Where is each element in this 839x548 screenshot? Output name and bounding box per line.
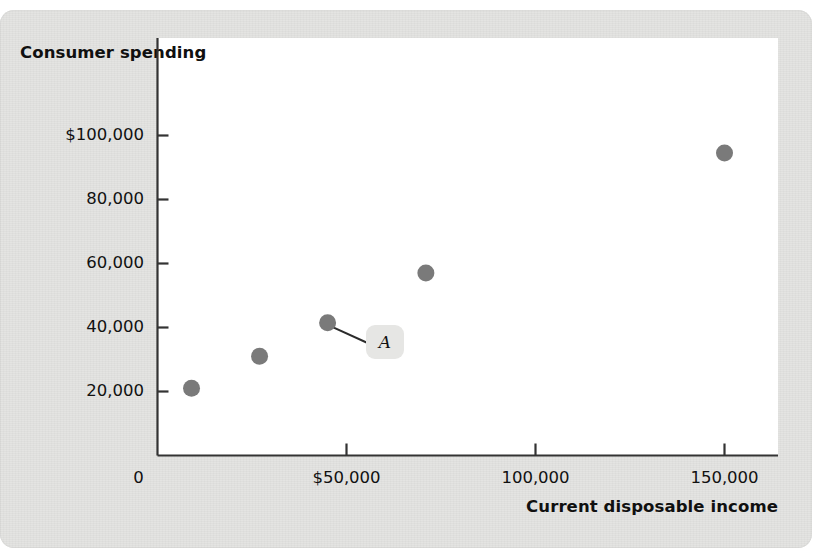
figure-container: Consumer spending Current disposable inc… (0, 0, 839, 548)
axis-tick-marks (158, 136, 725, 456)
axis-lines (158, 38, 779, 456)
annotation-label-a: A (366, 325, 404, 359)
scatter-point (716, 145, 733, 162)
scatter-point (251, 348, 268, 365)
scatter-point (417, 265, 434, 282)
scatter-point (319, 314, 336, 331)
chart-graphics (0, 0, 839, 548)
scatter-points (183, 145, 733, 397)
scatter-point (183, 380, 200, 397)
